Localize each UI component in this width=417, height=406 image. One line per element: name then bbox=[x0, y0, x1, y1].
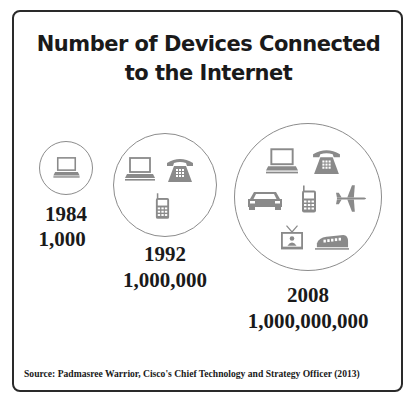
television-icon bbox=[281, 225, 303, 250]
year-label-2008: 2008 bbox=[258, 283, 358, 308]
source-citation: Source: Padmasree Warrior, Cisco's Chief… bbox=[24, 368, 360, 379]
mobile-phone-icon bbox=[154, 193, 171, 220]
laptop-icon bbox=[125, 157, 155, 181]
count-label-1984: 1,000 bbox=[22, 227, 102, 252]
title-line-2: to the Internet bbox=[0, 59, 417, 88]
year-label-1984: 1984 bbox=[26, 202, 106, 227]
page-title: Number of Devices Connected to the Inter… bbox=[0, 30, 417, 88]
laptop-icon bbox=[266, 148, 298, 174]
airplane-icon bbox=[336, 185, 368, 212]
laptop-icon bbox=[53, 157, 80, 178]
telephone-icon bbox=[311, 148, 342, 175]
car-icon bbox=[247, 190, 283, 210]
circle-1992 bbox=[113, 133, 217, 237]
year-label-1992: 1992 bbox=[115, 242, 215, 267]
count-label-2008: 1,000,000,000 bbox=[233, 309, 383, 334]
title-line-1: Number of Devices Connected bbox=[0, 30, 417, 59]
telephone-icon bbox=[165, 157, 195, 183]
train-icon bbox=[314, 234, 350, 251]
mobile-phone-icon bbox=[300, 185, 318, 214]
count-label-1992: 1,000,000 bbox=[105, 268, 225, 293]
